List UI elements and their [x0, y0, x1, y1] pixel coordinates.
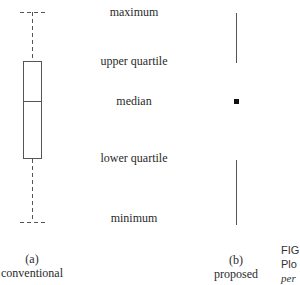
figure-caption-line2: Plo — [281, 257, 299, 271]
caption-b-tag: (b) — [214, 253, 258, 267]
figure-caption: FIG Plo per — [281, 243, 299, 285]
label-maximum: maximum — [110, 5, 159, 20]
median-square — [234, 99, 239, 104]
label-median: median — [116, 94, 151, 109]
figure-caption-line3: per — [281, 271, 299, 285]
conventional-box-plot — [20, 12, 45, 223]
iqr-box — [24, 62, 42, 159]
caption-conventional: (a) conventional — [1, 252, 63, 280]
label-lower-quartile: lower quartile — [101, 151, 168, 166]
caption-a-tag: (a) — [1, 252, 63, 266]
caption-b-name: proposed — [214, 267, 258, 281]
caption-proposed: (b) proposed — [214, 253, 258, 281]
figure-caption-line1: FIG — [281, 243, 299, 257]
proposed-plot — [234, 13, 239, 225]
label-upper-quartile: upper quartile — [101, 54, 168, 69]
label-minimum: minimum — [111, 211, 158, 226]
caption-a-name: conventional — [1, 266, 63, 280]
